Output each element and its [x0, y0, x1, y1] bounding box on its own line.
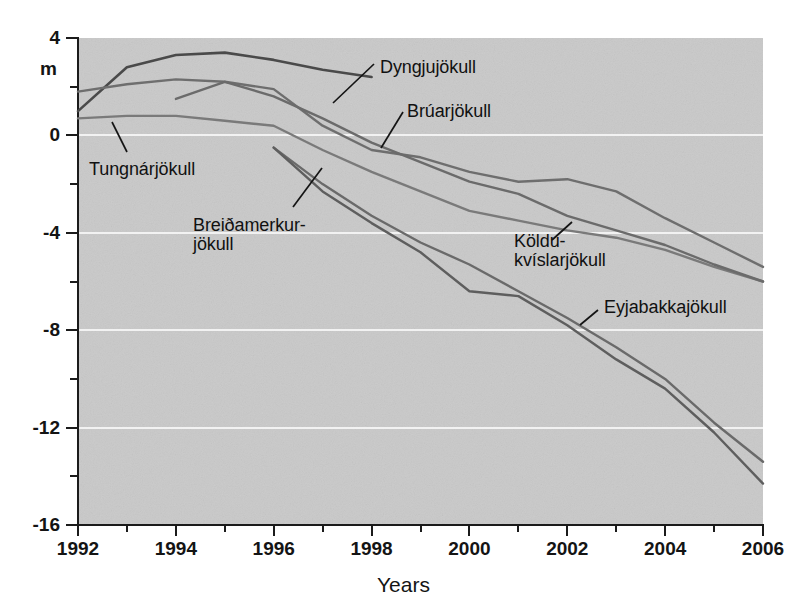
series-label: Dyngjujökull — [380, 58, 476, 77]
y-tick-major — [66, 37, 79, 39]
x-tick-label: 1992 — [57, 538, 99, 560]
series-label: Köldu- kvíslarjökull — [514, 232, 606, 271]
x-tick-label: 2000 — [448, 538, 490, 560]
series-label: Tungnárjökull — [89, 160, 195, 179]
x-tick-minor — [224, 524, 226, 532]
x-tick-minor — [713, 524, 715, 532]
x-tick-label: 1994 — [155, 538, 197, 560]
x-tick-major — [468, 524, 470, 536]
y-tick-minor — [70, 183, 79, 185]
y-tick-label: -12 — [33, 418, 60, 437]
series-label: Brúarjökull — [407, 102, 491, 121]
x-tick-major — [664, 524, 666, 536]
gridline — [78, 427, 763, 429]
x-tick-label: 2004 — [644, 538, 686, 560]
y-axis-unit-label: m — [40, 58, 57, 80]
x-tick-minor — [517, 524, 519, 532]
x-tick-major — [762, 524, 764, 536]
y-tick-major — [66, 427, 79, 429]
x-tick-major — [273, 524, 275, 536]
series-label: Eyjabakkajökull — [604, 298, 727, 317]
glacier-mass-balance-chart: 40-4-8-12-16 199219941996199820002002200… — [0, 0, 807, 613]
x-tick-major — [175, 524, 177, 536]
gridline — [78, 329, 763, 331]
x-tick-major — [371, 524, 373, 536]
series-label: Breiðamerkur- jökull — [193, 216, 306, 255]
x-tick-major — [77, 524, 79, 536]
x-tick-label: 2002 — [546, 538, 588, 560]
x-tick-label: 1996 — [253, 538, 295, 560]
gridline — [78, 134, 763, 136]
y-tick-label: -16 — [33, 515, 60, 534]
x-tick-label: 1998 — [350, 538, 392, 560]
y-tick-major — [66, 232, 79, 234]
y-tick-major — [66, 329, 79, 331]
x-tick-minor — [420, 524, 422, 532]
y-tick-label: -4 — [43, 223, 60, 242]
x-tick-minor — [322, 524, 324, 532]
y-tick-minor — [70, 86, 79, 88]
y-tick-major — [66, 134, 79, 136]
y-tick-label: 0 — [49, 125, 60, 144]
x-tick-major — [566, 524, 568, 536]
y-tick-label: -8 — [43, 320, 60, 339]
x-axis-title: Years — [0, 573, 807, 597]
x-tick-minor — [615, 524, 617, 532]
y-tick-label: 4 — [49, 28, 60, 47]
y-tick-minor — [70, 281, 79, 283]
gridline — [78, 232, 763, 234]
y-tick-minor — [70, 378, 79, 380]
x-tick-minor — [126, 524, 128, 532]
y-tick-minor — [70, 475, 79, 477]
x-tick-label: 2006 — [742, 538, 784, 560]
